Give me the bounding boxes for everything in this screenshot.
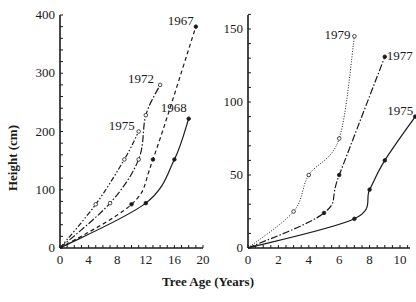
data-point-marker xyxy=(322,211,326,215)
y-tick-label: 300 xyxy=(36,65,56,80)
data-point-marker xyxy=(187,117,191,121)
series-line-1977 xyxy=(248,57,385,248)
data-point-marker xyxy=(94,203,98,207)
y-tick-label: 100 xyxy=(224,94,244,109)
data-point-marker xyxy=(194,25,198,29)
x-tick-label: 2 xyxy=(275,252,282,267)
y-tick-label: 50 xyxy=(230,167,243,182)
data-point-marker xyxy=(151,158,155,162)
series-label-1979: 1979 xyxy=(324,27,350,42)
x-tick-label: 0 xyxy=(245,252,252,267)
y-tick-label: 100 xyxy=(36,182,56,197)
x-tick-label: 10 xyxy=(394,252,407,267)
data-point-marker xyxy=(337,137,341,141)
data-point-marker xyxy=(337,173,341,177)
y-tick-label: 400 xyxy=(36,7,56,22)
x-tick-label: 0 xyxy=(57,252,64,267)
series-line-1975 xyxy=(248,117,415,248)
x-tick-label: 16 xyxy=(168,252,182,267)
data-point-marker xyxy=(108,201,112,205)
series-label-1967: 1967 xyxy=(168,13,195,28)
data-point-marker xyxy=(307,173,311,177)
data-point-marker xyxy=(353,217,357,221)
y-tick-label: 150 xyxy=(224,21,244,36)
series-label-1968: 1968 xyxy=(161,100,187,115)
data-point-marker xyxy=(353,35,357,39)
series-label-1975: 1975 xyxy=(387,103,413,118)
x-tick-label: 4 xyxy=(306,252,313,267)
data-point-marker xyxy=(123,158,127,162)
y-tick-label: 200 xyxy=(36,124,56,139)
x-tick-label: 4 xyxy=(85,252,92,267)
data-point-marker xyxy=(292,210,296,214)
series-line-1975 xyxy=(60,132,139,249)
y-tick-label: 0 xyxy=(237,240,244,255)
data-point-marker xyxy=(130,203,134,207)
data-point-marker xyxy=(137,130,141,134)
x-tick-label: 8 xyxy=(366,252,373,267)
tree-growth-chart: 0100200300400048121620196719681972197505… xyxy=(0,0,416,302)
series-line-1979 xyxy=(248,36,354,248)
x-tick-label: 12 xyxy=(139,252,152,267)
y-axis-title: Height (cm) xyxy=(5,113,21,203)
right-panel: 0501001500246810197919771975 xyxy=(224,14,416,267)
data-point-marker xyxy=(158,83,162,87)
data-point-marker xyxy=(144,201,148,205)
left-panel: 01002003004000481216201967196819721975 xyxy=(36,7,210,267)
series-line-1968 xyxy=(60,119,189,248)
series-label-1977: 1977 xyxy=(387,48,414,63)
x-tick-label: 20 xyxy=(197,252,210,267)
data-point-marker xyxy=(383,159,387,163)
series-label-1972: 1972 xyxy=(128,71,154,86)
data-point-marker xyxy=(137,158,141,162)
x-tick-label: 8 xyxy=(114,252,121,267)
series-label-1975: 1975 xyxy=(109,118,135,133)
data-point-marker xyxy=(173,158,177,162)
y-tick-label: 0 xyxy=(49,240,56,255)
data-point-marker xyxy=(368,188,372,192)
x-tick-label: 6 xyxy=(336,252,343,267)
data-point-marker xyxy=(144,113,148,117)
x-axis-title: Tree Age (Years) xyxy=(0,274,416,290)
